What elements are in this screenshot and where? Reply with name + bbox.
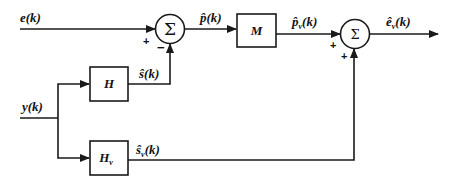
sign-plus-bottom: + [341,50,347,62]
label-p-hat: p̂(k) [199,10,222,25]
label-s-hat: ŝ(k) [138,66,159,81]
sign-plus-left: + [330,39,336,51]
summer-1: Σ + − [143,15,185,56]
label-ev-hat: êv(k) [386,14,411,31]
block-M-label: M [250,23,263,38]
label-e: e(k) [20,10,41,25]
sigma-icon: Σ [350,27,359,42]
block-H-label: H [103,76,115,91]
block-H: H [90,67,128,101]
block-M: M [237,14,276,47]
summer-2: Σ + + [330,20,370,63]
input-y: y(k) [20,84,89,158]
wire-Hv-to-sum2 [128,49,354,160]
sign-minus: − [157,40,165,55]
label-y: y(k) [20,99,43,114]
sign-plus: + [143,35,149,47]
block-Hv: Hv [90,141,128,175]
sigma-icon: Σ [164,19,176,39]
wire-y-to-Hv [58,118,89,158]
label-sv-hat: ŝv(k) [135,142,160,159]
block-diagram: e(k) Σ + − p̂(k) M p̂v(k) Σ + + êv(k) y(… [0,0,453,183]
input-e: e(k) [20,10,155,29]
label-pv-hat: p̂v(k) [291,14,317,31]
wire-y-to-H [58,84,89,118]
